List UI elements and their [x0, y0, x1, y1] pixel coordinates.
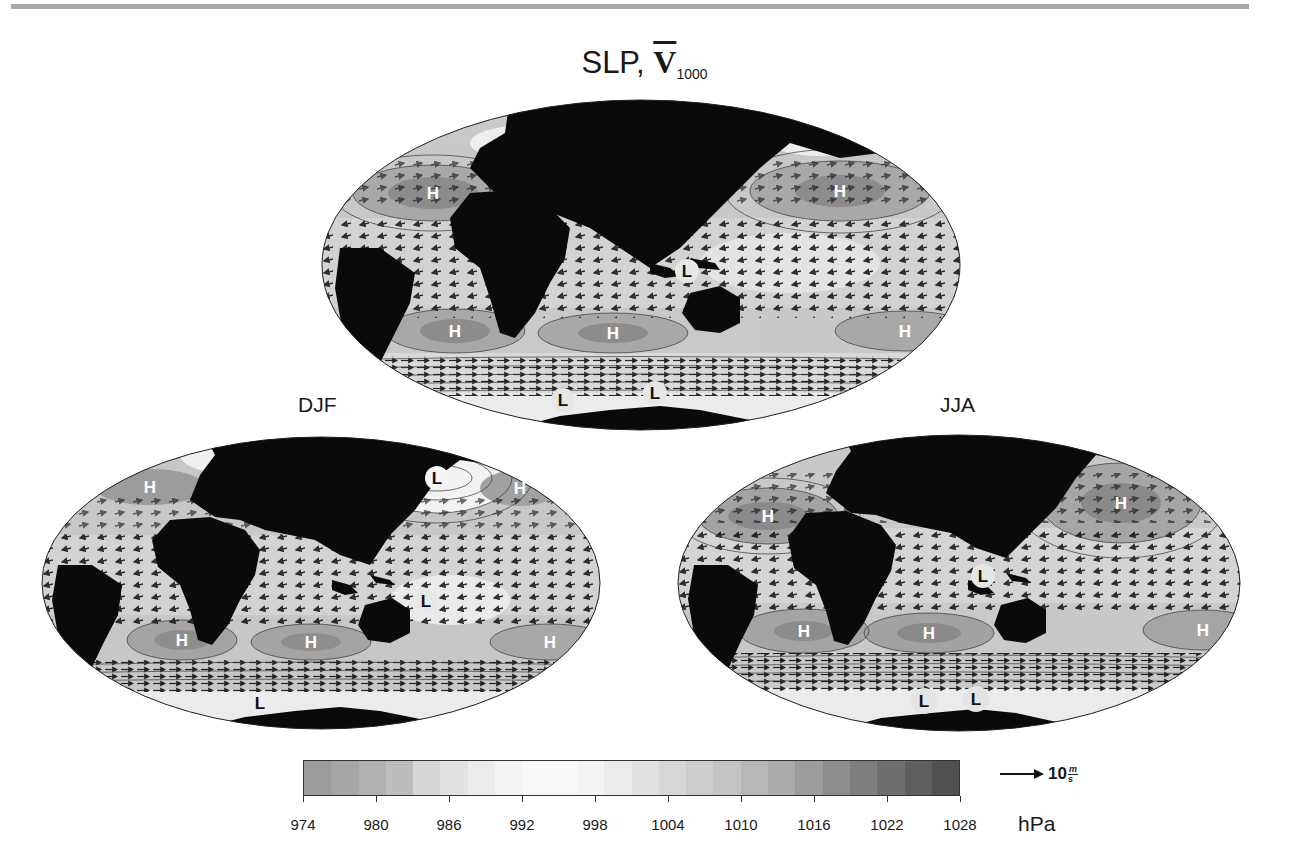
colorbar-swatch — [468, 761, 495, 795]
low-pressure-marker: L — [650, 384, 660, 403]
colorbar-tick-label: 980 — [363, 816, 388, 833]
high-pressure-marker: H — [514, 479, 526, 498]
colorbar-swatch — [850, 761, 877, 795]
colorbar-unit-label: hPa — [1018, 812, 1055, 836]
colorbar-tick — [449, 796, 450, 802]
high-pressure-marker: H — [1115, 494, 1127, 513]
top-divider-rule — [11, 4, 1249, 9]
high-pressure-marker: H — [798, 622, 810, 641]
figure-title: SLP, V1000 — [0, 42, 1289, 94]
colorbar-tick-label: 1022 — [870, 816, 903, 833]
colorbar-swatch — [522, 761, 549, 795]
colorbar-swatch — [632, 761, 659, 795]
colorbar-swatch — [741, 761, 768, 795]
colorbar-tick — [303, 796, 304, 802]
colorbar-swatch — [768, 761, 795, 795]
vector-legend-unit: m s — [1068, 765, 1078, 784]
colorbar-swatch — [932, 761, 959, 795]
colorbar-tick — [522, 796, 523, 802]
colorbar-tick-label: 1028 — [943, 816, 976, 833]
colorbar-swatch — [331, 761, 358, 795]
mollweide-map-annual: H H H H H L L L — [320, 98, 962, 432]
high-pressure-marker: H — [1197, 621, 1209, 640]
mollweide-map-jja: H H H H H L L L — [676, 433, 1242, 733]
colorbar-tick — [814, 796, 815, 802]
colorbar-tick — [960, 796, 961, 802]
colorbar-tick-label: 974 — [290, 816, 315, 833]
colorbar-swatch — [823, 761, 850, 795]
low-pressure-marker: L — [558, 391, 568, 410]
map-jja: H H H H H L L L — [676, 433, 1242, 733]
colorbar-swatch — [604, 761, 631, 795]
vector-legend-value: 10 — [1048, 764, 1067, 784]
colorbar-swatch — [440, 761, 467, 795]
colorbar-tick-label: 1004 — [651, 816, 684, 833]
high-pressure-marker: H — [607, 324, 619, 343]
high-pressure-marker: H — [544, 633, 556, 652]
high-pressure-marker: H — [305, 633, 317, 652]
colorbar-swatch — [359, 761, 386, 795]
pressure-colorbar — [303, 760, 960, 796]
colorbar-ticks — [303, 796, 960, 804]
colorbar-tick-label: 986 — [436, 816, 461, 833]
colorbar-swatch — [577, 761, 604, 795]
colorbar-swatch — [304, 761, 331, 795]
colorbar-tick-label: 1016 — [797, 816, 830, 833]
map-djf: H H H H H L L L — [40, 435, 602, 731]
low-pressure-marker: L — [432, 469, 442, 488]
colorbar-swatch — [659, 761, 686, 795]
colorbar-swatch — [495, 761, 522, 795]
colorbar-gradient — [303, 760, 960, 796]
colorbar-tick-label: 992 — [509, 816, 534, 833]
map-annual-mean: H H H H H L L L — [320, 98, 962, 432]
colorbar-tick — [595, 796, 596, 802]
low-pressure-marker: L — [971, 690, 981, 709]
title-subscript: 1000 — [676, 66, 707, 82]
high-pressure-marker: H — [762, 507, 774, 526]
high-pressure-marker: H — [427, 184, 439, 203]
reference-arrow-icon — [1000, 768, 1044, 780]
high-pressure-marker: H — [449, 322, 461, 341]
colorbar-swatch — [386, 761, 413, 795]
low-pressure-marker: L — [421, 592, 431, 611]
colorbar-tick-label: 998 — [582, 816, 607, 833]
colorbar-swatch — [877, 761, 904, 795]
colorbar-swatch — [413, 761, 440, 795]
high-pressure-marker: H — [176, 631, 188, 650]
high-pressure-marker: H — [899, 322, 911, 341]
low-pressure-marker: L — [919, 692, 929, 711]
colorbar-tick — [668, 796, 669, 802]
colorbar-tick — [376, 796, 377, 802]
high-pressure-marker: H — [834, 182, 846, 201]
colorbar-tick — [887, 796, 888, 802]
low-pressure-marker: L — [682, 262, 692, 281]
low-pressure-marker: L — [978, 567, 988, 586]
colorbar-swatch — [550, 761, 577, 795]
high-pressure-marker: H — [144, 478, 156, 497]
colorbar-swatch — [795, 761, 822, 795]
colorbar-tick-label: 1010 — [724, 816, 757, 833]
mollweide-map-djf: H H H H H L L L — [40, 435, 602, 731]
low-pressure-marker: L — [255, 694, 265, 713]
title-vector-symbol: V — [653, 44, 676, 80]
colorbar-swatch — [905, 761, 932, 795]
colorbar-swatch — [686, 761, 713, 795]
title-prefix: SLP, — [581, 45, 653, 80]
high-pressure-marker: H — [923, 624, 935, 643]
colorbar-tick — [741, 796, 742, 802]
colorbar-swatch — [713, 761, 740, 795]
wind-vector-legend: 10 m s — [1000, 764, 1078, 784]
